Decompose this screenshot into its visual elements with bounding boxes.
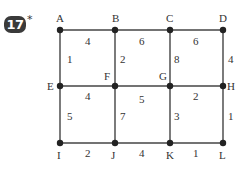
node-D xyxy=(220,27,226,33)
edge-weight-FJ: 7 xyxy=(120,110,126,122)
edge-weight-AB: 4 xyxy=(85,35,91,47)
edge-weight-DH: 4 xyxy=(228,53,234,65)
edge-weight-BC: 6 xyxy=(139,35,145,47)
node-I xyxy=(57,140,63,146)
edge-weight-HL: 1 xyxy=(228,110,234,122)
node-label-A: A xyxy=(56,12,64,24)
node-label-H: H xyxy=(227,80,235,92)
node-K xyxy=(167,140,173,146)
node-label-E: E xyxy=(47,80,54,92)
node-label-J: J xyxy=(111,149,116,161)
node-label-G: G xyxy=(159,70,167,82)
node-E xyxy=(57,83,63,89)
edge-weight-EI: 5 xyxy=(67,110,73,122)
edge-weight-FG: 5 xyxy=(139,93,145,105)
node-B xyxy=(112,27,118,33)
edge-weight-JK: 4 xyxy=(139,147,145,159)
edge-weight-BF: 2 xyxy=(120,53,126,65)
edge-weight-CG: 8 xyxy=(174,53,180,65)
weighted-graph: 46612844525731241ABCDEFGHIJKL xyxy=(0,0,250,172)
node-label-C: C xyxy=(166,12,173,24)
node-A xyxy=(57,27,63,33)
edge-weight-GK: 3 xyxy=(174,110,180,122)
node-H xyxy=(220,83,226,89)
node-label-B: B xyxy=(112,12,119,24)
node-label-K: K xyxy=(166,149,174,161)
node-C xyxy=(167,27,173,33)
node-label-D: D xyxy=(219,12,227,24)
edge-weight-AE: 1 xyxy=(67,53,73,65)
node-label-F: F xyxy=(104,70,110,82)
node-L xyxy=(220,140,226,146)
node-F xyxy=(112,83,118,89)
node-J xyxy=(112,140,118,146)
node-G xyxy=(167,83,173,89)
edge-weight-CD: 6 xyxy=(193,35,199,47)
edge-weight-IJ: 2 xyxy=(85,147,91,159)
node-label-I: I xyxy=(57,149,61,161)
edge-weight-KL: 1 xyxy=(193,147,199,159)
edge-weight-GH: 2 xyxy=(193,90,199,102)
node-label-L: L xyxy=(219,149,226,161)
edge-weight-EF: 4 xyxy=(85,90,91,102)
